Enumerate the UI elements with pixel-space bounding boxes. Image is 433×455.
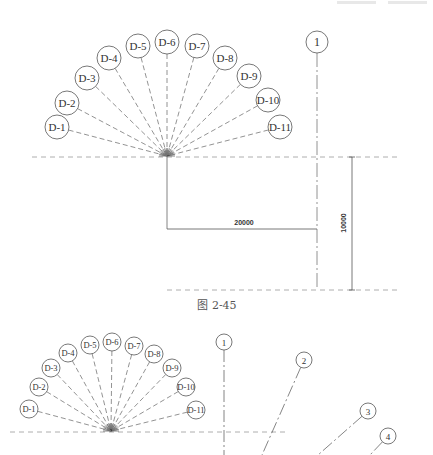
- cad-drawing: D-1D-2D-3D-4D-5D-6D-7D-8D-9D-10D-11 1 20…: [0, 0, 433, 455]
- top-grid-axis-1: 1: [306, 31, 328, 53]
- radial-axis-line: [115, 68, 167, 156]
- bottom-grid-axes: 1234: [216, 334, 396, 455]
- grid-axis-label: 3: [366, 407, 371, 417]
- axis-label: D-9: [240, 70, 258, 82]
- radial-axis-line: [167, 58, 194, 156]
- grid-axis-label: 1: [222, 338, 227, 348]
- axis-label: D-5: [83, 340, 96, 350]
- figure-caption: 图 2-45: [197, 299, 236, 312]
- top-radial-axes: D-1D-2D-3D-4D-5D-6D-7D-8D-9D-10D-11: [45, 30, 292, 156]
- axis-label: D-10: [177, 382, 194, 392]
- radial-axis-line: [167, 130, 268, 156]
- radial-axis-line: [111, 374, 166, 431]
- axis-label: D-11: [187, 405, 204, 415]
- radial-axis-line: [141, 58, 167, 156]
- grid-axis-line: [262, 367, 301, 455]
- grid-axis-line: [318, 416, 362, 455]
- axis-label: D-4: [61, 348, 75, 358]
- axis-label: D-3: [44, 363, 57, 373]
- radial-axis-line: [38, 411, 111, 431]
- radial-axis-line: [167, 84, 240, 156]
- axis-label: D-7: [188, 40, 206, 52]
- axis-label: D-10: [257, 94, 280, 106]
- radial-axis-line: [111, 362, 150, 431]
- grid-axis-label: 4: [386, 432, 391, 442]
- radial-axis-line: [47, 392, 111, 431]
- dimension-horizontal-text: 20000: [234, 219, 254, 226]
- radial-axis-line: [96, 86, 167, 156]
- axis-label: D-5: [129, 40, 147, 52]
- axis-label: D-4: [100, 52, 118, 64]
- axis-label: D-1: [48, 121, 65, 133]
- axis-label: D-1: [22, 404, 35, 414]
- bottom-radial-axes: D-1D-2D-3D-4D-5D-6D-7D-8D-9D-10D-11: [20, 333, 205, 431]
- axis-label: D-7: [127, 341, 140, 351]
- radial-axis-line: [92, 354, 111, 431]
- radial-axis-line: [111, 392, 178, 431]
- radial-axis-line: [111, 355, 132, 431]
- axis-label: D-3: [78, 72, 96, 84]
- grid-axis-label: 1: [314, 35, 320, 49]
- axis-label: D-2: [32, 382, 45, 392]
- radial-axis-line: [167, 106, 258, 156]
- radial-axis-line: [69, 130, 167, 156]
- axis-label: D-8: [216, 52, 234, 64]
- radial-axis-line: [167, 68, 219, 156]
- axis-label: D-9: [165, 363, 178, 373]
- axis-label: D-6: [105, 337, 118, 347]
- grid-axis-line: [370, 442, 382, 455]
- radial-axis-line: [111, 412, 187, 431]
- radial-axis-line: [72, 361, 111, 431]
- axis-label: D-11: [269, 121, 291, 133]
- dimension-vertical-text: 10000: [340, 213, 347, 233]
- axis-label: D-8: [147, 349, 160, 359]
- grid-axis-label: 2: [302, 356, 307, 366]
- axis-label: D-2: [58, 97, 75, 109]
- radial-axis-line: [111, 351, 112, 431]
- axis-label: D-6: [158, 36, 176, 48]
- radial-axis-line: [78, 109, 167, 156]
